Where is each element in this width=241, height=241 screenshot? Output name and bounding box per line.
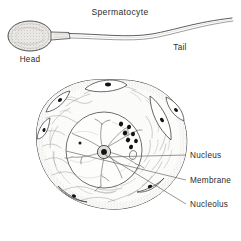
chromatin-dot bbox=[79, 142, 82, 145]
figure-page: Spermatocyte Head Tail bbox=[0, 0, 241, 241]
sperm-midpiece-icon bbox=[51, 32, 70, 40]
sperm-tail-core-line bbox=[70, 20, 233, 38]
tail-label: Tail bbox=[173, 43, 186, 52]
label-nucleus: Nucleus bbox=[190, 151, 221, 160]
sperm-tail-icon bbox=[69, 18, 232, 36]
sperm-head-icon bbox=[8, 21, 52, 51]
label-nucleolus: Nucleolus bbox=[190, 200, 228, 209]
satellite-nucleus-top bbox=[105, 83, 111, 87]
sperm-tail-inner-line bbox=[70, 21, 233, 40]
spermatocyte-title-label: Spermatocyte bbox=[91, 7, 148, 17]
label-membrane: Membrane bbox=[190, 176, 231, 185]
magnified-cell-drawing: Nucleus Membrane Nucleolus bbox=[37, 80, 232, 209]
spermatocyte-figure: Spermatocyte Head Tail bbox=[0, 0, 241, 241]
head-label: Head bbox=[20, 55, 41, 64]
sperm-cell-drawing: Spermatocyte Head Tail bbox=[8, 7, 233, 64]
